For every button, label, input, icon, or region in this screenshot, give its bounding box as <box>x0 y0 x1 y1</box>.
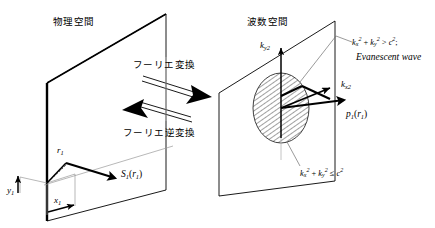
s1-paren-close: ) <box>139 169 142 179</box>
fourier-forward-label: フーリエ変換 <box>133 60 195 70</box>
c-sup-2: 2 <box>340 167 343 173</box>
ky2-axis-label: ky2 <box>260 41 270 51</box>
wavenumber-space-title: 波数空間 <box>247 17 289 27</box>
plus-op: + <box>361 38 370 47</box>
evanescent-condition-formula: kx2 + ky2 > c2; <box>352 36 398 47</box>
ky2-subscript: y2 <box>264 44 270 51</box>
semicolon: ; <box>395 38 397 47</box>
greater-than-op: > <box>380 38 389 47</box>
plus-op-2: + <box>309 169 318 178</box>
y1-label: y1 <box>7 186 14 196</box>
s1-label: S1(r1) <box>121 170 142 180</box>
kx2-subscript: x2 <box>345 83 351 90</box>
evanescent-wave-label: Evanescent wave <box>356 53 421 63</box>
figure-canvas: 物理空間 フーリエ変換 フーリエ逆変換 r1 y1 x1 S1(r1) 波数空間… <box>0 0 435 228</box>
kx2-axis-label: kx2 <box>341 80 351 90</box>
fourier-inverse-label: フーリエ逆変換 <box>123 128 196 138</box>
p1-label: p1(r1) <box>346 110 367 120</box>
x1-subscript: 1 <box>58 199 61 206</box>
less-equal-op: ≤ <box>328 169 337 178</box>
y1-subscript: 1 <box>11 189 14 196</box>
physical-plane-outline <box>47 14 166 221</box>
physical-space-plane <box>47 14 166 221</box>
x1-label: x1 <box>54 196 61 206</box>
physical-space-title: 物理空間 <box>53 17 95 27</box>
diagram-vector-layer <box>0 0 435 228</box>
r1-subscript: 1 <box>61 149 64 156</box>
propagating-condition-formula: kx2 + ky2 ≤ c2 <box>300 167 343 178</box>
p1-paren-close: ) <box>364 109 367 119</box>
r1-label: r1 <box>57 146 64 156</box>
